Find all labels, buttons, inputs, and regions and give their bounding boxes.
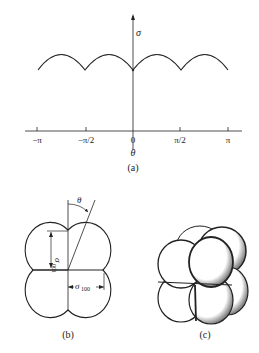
theta-label: θ [77, 195, 82, 205]
caption-c: (c) [199, 329, 210, 341]
tick-label-zero: 0 [131, 135, 136, 145]
tick-label-neg-half-pi: −π/2 [78, 135, 95, 145]
x-axis-label: θ [131, 147, 136, 158]
tick-label-pi: π [226, 135, 231, 145]
diagram-canvas: σ −π −π/2 0 π/2 π θ (a) θ σ 001 σ 100 (b… [0, 0, 259, 353]
caption-b: (b) [62, 329, 74, 341]
y-axis-arrow-icon [131, 14, 135, 20]
figure-c-3d-wulff-shape: (c) [158, 226, 248, 341]
sigma-100-label: σ [75, 281, 80, 291]
sigma-001-label: σ [53, 258, 63, 263]
figure-a-plot: σ −π −π/2 0 π/2 π θ (a) [25, 14, 242, 174]
sigma-001-subscript: 001 [51, 264, 57, 273]
figure-b-wulff-plot: θ σ 001 σ 100 (b) [25, 195, 111, 341]
y-axis-label: σ [136, 27, 142, 38]
tick-label-half-pi: π/2 [174, 135, 186, 145]
angle-line [68, 200, 95, 270]
sigma-100-subscript: 100 [81, 286, 90, 292]
x-ticks [37, 127, 228, 131]
tick-label-neg-pi: −π [32, 135, 42, 145]
caption-a: (a) [127, 162, 138, 174]
theta-arc [68, 204, 88, 212]
